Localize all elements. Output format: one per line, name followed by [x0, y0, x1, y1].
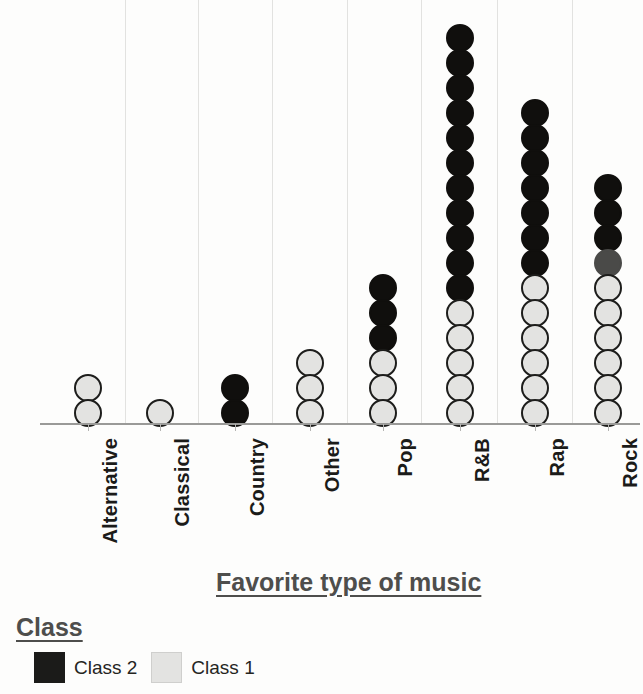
dot-class1: [369, 374, 397, 402]
legend-items: Class 2Class 1: [16, 652, 255, 683]
dot-column-r-b: [440, 24, 480, 424]
dot-class2: [521, 174, 549, 202]
axis-tick-5: [460, 424, 461, 431]
category-label-rock: Rock: [619, 438, 641, 578]
dot-class1: [521, 349, 549, 377]
legend-label: Class 2: [74, 657, 137, 679]
dot-column-rock: [588, 174, 628, 424]
axis-tick-1: [160, 424, 161, 431]
dot-class2: [594, 174, 622, 202]
dot-plot-chart: AlternativeClassicalCountryOtherPopR&BRa…: [0, 0, 643, 694]
dot-class1: [446, 324, 474, 352]
x-axis-line: [40, 423, 640, 425]
dot-column-rap: [515, 99, 555, 424]
legend-label: Class 1: [191, 657, 254, 679]
dot-class1: [296, 374, 324, 402]
dot-class2: [521, 249, 549, 277]
dot-class1: [446, 299, 474, 327]
gridline-6: [572, 0, 573, 424]
dot-class1: [521, 274, 549, 302]
category-label-rap: Rap: [546, 438, 568, 578]
dot-class2: [594, 249, 622, 277]
dot-class2: [446, 274, 474, 302]
dot-class2: [446, 199, 474, 227]
axis-tick-2: [235, 424, 236, 431]
x-axis-title: Favorite type of music: [216, 568, 481, 597]
category-label-pop: Pop: [394, 438, 416, 578]
category-label-r-b: R&B: [471, 438, 493, 578]
dot-class1: [594, 299, 622, 327]
legend-swatch-icon: [151, 652, 182, 683]
dot-class2: [521, 124, 549, 152]
dot-class2: [521, 149, 549, 177]
gridline-3: [347, 0, 348, 424]
dot-class1: [369, 349, 397, 377]
dot-class1: [446, 349, 474, 377]
plot-area: [0, 0, 643, 424]
category-label-country: Country: [246, 438, 268, 578]
gridline-0: [125, 0, 126, 424]
dot-class1: [521, 299, 549, 327]
gridline-4: [421, 0, 422, 424]
dot-column-pop: [363, 274, 403, 424]
axis-tick-4: [383, 424, 384, 431]
dot-class2: [446, 99, 474, 127]
dot-class1: [521, 324, 549, 352]
dot-class2: [446, 74, 474, 102]
dot-class1: [594, 374, 622, 402]
legend-title: Class: [16, 613, 255, 642]
dot-class2: [521, 99, 549, 127]
dot-class2: [446, 124, 474, 152]
dot-class2: [369, 324, 397, 352]
axis-tick-6: [535, 424, 536, 431]
dot-class2: [446, 149, 474, 177]
category-label-other: Other: [321, 438, 343, 578]
dot-class2: [594, 224, 622, 252]
gridline-5: [497, 0, 498, 424]
dot-class2: [521, 224, 549, 252]
gridline-1: [198, 0, 199, 424]
dot-column-alternative: [68, 374, 108, 424]
dot-class1: [594, 349, 622, 377]
axis-tick-3: [310, 424, 311, 431]
dot-class2: [369, 274, 397, 302]
dot-column-country: [215, 374, 255, 424]
legend-swatch-icon: [34, 652, 65, 683]
dot-column-classical: [140, 399, 180, 424]
dot-class2: [594, 199, 622, 227]
dot-class1: [521, 374, 549, 402]
dot-class1: [296, 349, 324, 377]
axis-tick-7: [608, 424, 609, 431]
dot-class2: [521, 199, 549, 227]
dot-class2: [446, 249, 474, 277]
legend: Class Class 2Class 1: [16, 613, 255, 683]
legend-item-class-2[interactable]: Class 2: [34, 652, 137, 683]
category-label-classical: Classical: [171, 438, 193, 578]
dot-class2: [446, 174, 474, 202]
dot-class2: [446, 49, 474, 77]
dot-class1: [594, 274, 622, 302]
axis-tick-0: [88, 424, 89, 431]
dot-column-other: [290, 349, 330, 424]
dot-class2: [446, 24, 474, 52]
category-label-alternative: Alternative: [99, 438, 121, 578]
legend-item-class-1[interactable]: Class 1: [151, 652, 254, 683]
dot-class1: [446, 374, 474, 402]
dot-class1: [594, 324, 622, 352]
dot-class1: [74, 374, 102, 402]
dot-class2: [221, 374, 249, 402]
gridline-2: [272, 0, 273, 424]
dot-class2: [446, 224, 474, 252]
dot-class2: [369, 299, 397, 327]
